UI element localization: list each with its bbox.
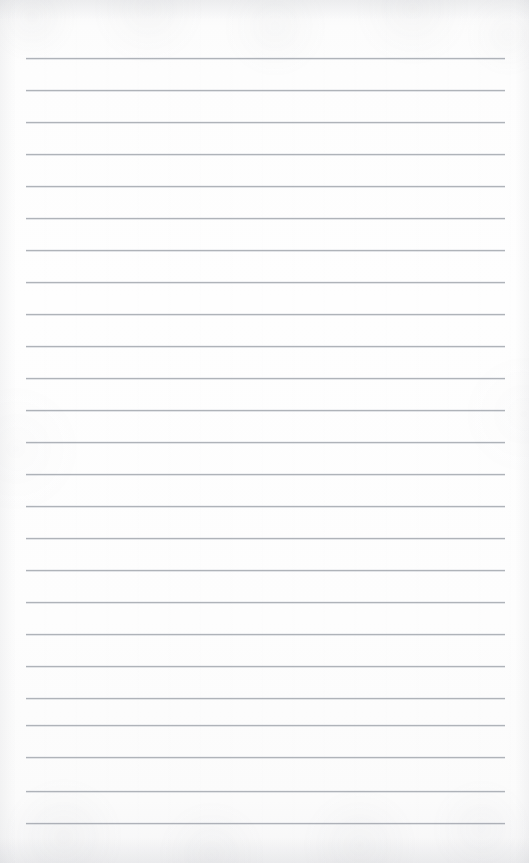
scanned-page	[0, 0, 529, 863]
writing-area	[26, 40, 505, 840]
